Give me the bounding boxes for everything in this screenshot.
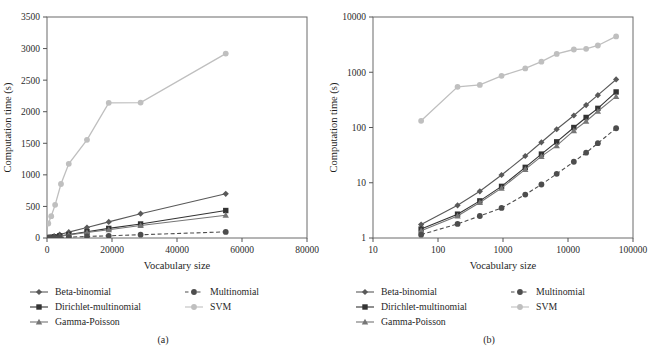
x-ticklabel-1: 20000 [100, 245, 124, 255]
panel-a-canvas: 0200004000060000800000500100015002000250… [0, 0, 326, 353]
x-ticklabel-4: 100000 [619, 245, 648, 255]
x-ticklabel-3: 60000 [230, 245, 254, 255]
datapoint-multinomial-9 [595, 140, 601, 146]
datapoint-legend-multinomial-0 [191, 289, 197, 295]
y-ticklabel-3: 1500 [21, 139, 40, 149]
datapoint-svm-6 [106, 100, 112, 106]
datapoint-legend-multinomial-0 [517, 289, 523, 295]
panel-b-canvas: 10100100010000100000110100100010000Vocab… [326, 0, 652, 353]
panel-caption: (a) [157, 334, 168, 346]
datapoint-multinomial-7 [571, 159, 577, 165]
y-ticklabel-4: 2000 [21, 107, 40, 117]
series-layer [44, 51, 229, 241]
figure-root: 0200004000060000800000500100015002000250… [0, 0, 652, 353]
legend-label-svm: SVM [536, 301, 558, 312]
x-ticklabel-4: 80000 [295, 245, 319, 255]
datapoint-beta_binomial-10 [223, 191, 229, 197]
series-layer [418, 34, 619, 238]
y-ticklabel-0: 1 [361, 233, 366, 243]
datapoint-svm-5 [539, 59, 545, 65]
datapoint-multinomial-4 [522, 192, 528, 198]
panel-b: 10100100010000100000110100100010000Vocab… [326, 0, 652, 353]
series-gamma_poisson [418, 93, 619, 233]
datapoint-multinomial-9 [138, 232, 144, 238]
panel-a: 0200004000060000800000500100015002000250… [0, 0, 326, 353]
x-ticklabel-0: 10 [368, 245, 378, 255]
series-line-svm [48, 54, 225, 224]
legend-label-beta_binomial: Beta-binomial [381, 286, 437, 297]
y-axis-title: Computation time (s) [2, 82, 14, 172]
datapoint-svm-8 [223, 51, 229, 57]
datapoint-svm-7 [138, 100, 144, 106]
legend-label-gamma_poisson: Gamma-Poisson [381, 316, 446, 327]
datapoint-multinomial-6 [554, 171, 560, 177]
datapoint-multinomial-0 [418, 232, 424, 238]
plot-frame [373, 17, 633, 238]
legend-label-multinomial: Multinomial [536, 286, 585, 297]
y-ticklabel-2: 1000 [21, 170, 40, 180]
series-beta_binomial [418, 76, 619, 227]
datapoint-multinomial-10 [613, 125, 619, 131]
x-axis-title: Vocabulary size [470, 260, 537, 271]
datapoint-multinomial-8 [583, 150, 589, 156]
x-ticklabel-2: 1000 [494, 245, 513, 255]
datapoint-multinomial-4 [51, 235, 57, 241]
datapoint-multinomial-5 [539, 182, 545, 188]
datapoint-svm-1 [48, 213, 54, 219]
series-dirichlet_multinomial [44, 208, 228, 241]
legend-label-beta_binomial: Beta-binomial [55, 286, 111, 297]
x-ticklabel-0: 0 [45, 245, 50, 255]
x-ticklabel-3: 10000 [556, 245, 580, 255]
datapoint-svm-2 [477, 82, 483, 88]
y-ticklabel-1: 10 [357, 178, 367, 188]
datapoint-beta_binomial-9 [138, 211, 144, 217]
legend: Beta-binomialDirichlet-multinomialGamma-… [356, 286, 585, 327]
datapoint-legend-beta_binomial-0 [362, 289, 368, 295]
y-ticklabel-1: 500 [26, 202, 41, 212]
series-line-multinomial [47, 232, 226, 238]
series-line-dirichlet_multinomial [421, 92, 616, 229]
datapoint-svm-7 [571, 47, 577, 53]
datapoint-svm-8 [583, 46, 589, 52]
datapoint-multinomial-5 [57, 235, 63, 241]
datapoint-svm-9 [595, 43, 601, 49]
legend-label-multinomial: Multinomial [210, 286, 259, 297]
y-ticklabel-5: 2500 [21, 76, 40, 86]
series-multinomial [418, 125, 619, 237]
y-ticklabel-7: 3500 [21, 12, 40, 22]
datapoint-multinomial-1 [455, 221, 461, 227]
y-ticklabel-6: 3000 [21, 44, 40, 54]
y-ticklabel-0: 0 [35, 233, 40, 243]
datapoint-svm-2 [52, 202, 58, 208]
x-ticklabel-2: 40000 [165, 245, 189, 255]
datapoint-multinomial-6 [66, 234, 72, 240]
y-ticklabel-3: 1000 [347, 68, 366, 78]
datapoint-legend-dirichlet_multinomial-1 [362, 304, 367, 309]
datapoint-beta_binomial-1 [454, 202, 460, 208]
datapoint-multinomial-8 [106, 233, 112, 239]
y-axis-title: Computation time (s) [328, 82, 340, 172]
datapoint-svm-6 [554, 51, 560, 57]
datapoint-svm-0 [45, 221, 51, 227]
datapoint-svm-0 [418, 118, 424, 124]
legend: Beta-binomialDirichlet-multinomialGamma-… [30, 286, 259, 327]
series-gamma_poisson [44, 212, 229, 240]
series-svm [418, 34, 619, 124]
datapoint-svm-1 [455, 84, 461, 90]
series-line-gamma_poisson [47, 215, 226, 238]
datapoint-legend-svm-1 [191, 304, 197, 310]
datapoint-svm-4 [66, 161, 72, 167]
datapoint-svm-3 [499, 73, 505, 79]
datapoint-svm-3 [58, 181, 64, 187]
x-ticklabel-1: 100 [431, 245, 446, 255]
datapoint-legend-beta_binomial-0 [36, 289, 42, 295]
datapoint-legend-svm-1 [517, 304, 523, 310]
datapoint-multinomial-10 [223, 229, 229, 235]
panel-caption: (b) [483, 334, 495, 346]
datapoint-svm-5 [84, 137, 90, 143]
datapoint-legend-dirichlet_multinomial-1 [36, 304, 41, 309]
series-beta_binomial [44, 191, 229, 241]
legend-label-dirichlet_multinomial: Dirichlet-multinomial [381, 301, 467, 312]
legend-label-gamma_poisson: Gamma-Poisson [55, 316, 120, 327]
series-line-beta_binomial [47, 194, 226, 238]
